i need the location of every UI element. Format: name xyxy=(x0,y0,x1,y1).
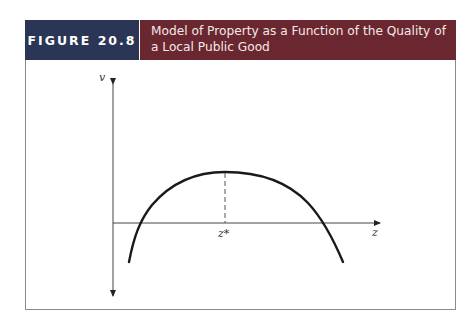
z-star-label: z* xyxy=(217,227,230,240)
v-curve xyxy=(129,172,343,262)
z-axis-label: z xyxy=(371,226,378,239)
v-axis-label: v xyxy=(99,71,106,84)
diagram: v z z* xyxy=(0,0,474,325)
